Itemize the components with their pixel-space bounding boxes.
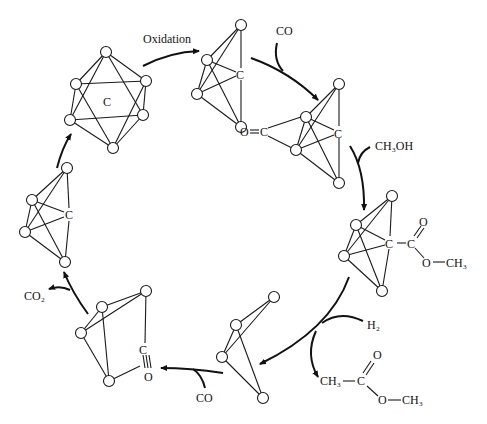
svg-text:CH₃: CH₃: [320, 374, 341, 388]
svg-text:C: C: [407, 237, 415, 251]
butterfly-carbide-cluster-regenerated: C: [20, 163, 74, 268]
carbide-label: C: [103, 95, 111, 109]
ketenylidene-cluster: C O C: [240, 79, 345, 189]
oxidation-label: Oxidation: [143, 32, 191, 46]
reaction-arrows: Oxidation CO CH₃OH H₂ CO CO₂: [24, 24, 414, 405]
svg-text:C: C: [385, 237, 393, 251]
butterfly-cluster-after-hydrogenolysis: [217, 292, 280, 404]
svg-text:O: O: [422, 256, 431, 270]
svg-text:O: O: [378, 393, 387, 407]
ch3oh-label: CH₃OH: [375, 139, 414, 153]
h2-label: H₂: [367, 318, 380, 332]
svg-text:C: C: [334, 127, 342, 141]
butterfly-carbide-cluster: C: [192, 20, 247, 133]
svg-text:O: O: [144, 370, 153, 384]
co2-label: CO₂: [24, 289, 45, 303]
svg-text:O: O: [419, 215, 428, 229]
svg-text:C: C: [260, 125, 268, 139]
catalytic-cycle-diagram: C C C O C: [0, 0, 487, 424]
methoxycarbonyl-methylidyne-cluster: C C O O CH₃: [339, 191, 467, 297]
svg-text:CH₃: CH₃: [446, 256, 467, 270]
svg-text:C: C: [357, 374, 365, 388]
svg-text:C: C: [139, 343, 147, 357]
svg-text:C: C: [65, 208, 73, 222]
co-out-label: CO: [196, 391, 213, 405]
methyl-acetate-product: CH₃ C O O CH₃: [320, 348, 423, 407]
octahedral-carbide-cluster: C: [65, 47, 152, 154]
svg-text:CH₃: CH₃: [402, 393, 423, 407]
co-in-label: CO: [276, 24, 293, 38]
svg-text:O: O: [240, 125, 249, 139]
carbonyl-bridged-cluster: C O: [76, 286, 154, 387]
svg-text:C: C: [236, 68, 244, 82]
svg-text:O: O: [373, 348, 382, 362]
